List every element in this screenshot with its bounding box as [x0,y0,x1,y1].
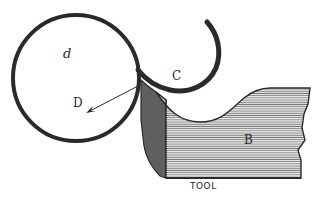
workpiece-label: d [63,47,71,60]
tool-body-label: B [244,134,253,146]
tool-front-face [141,80,166,178]
diagram-drawing [0,0,323,202]
centre-label: D [73,97,83,109]
tool-caption: TOOL [190,182,217,191]
workpiece-circle [13,15,139,141]
shaving-label: C [172,70,181,82]
tool-diagram: d D C B TOOL [0,0,323,202]
tool-body [156,88,310,178]
